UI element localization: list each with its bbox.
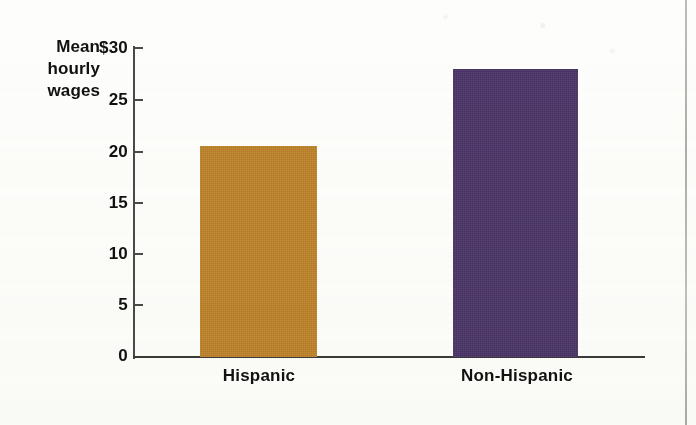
y-tick-mark-15	[135, 202, 143, 204]
y-tick-label-10: 10	[64, 245, 128, 262]
y-tick-label-5: 5	[64, 296, 128, 313]
y-tick-mark-30	[135, 47, 143, 49]
x-axis-label-non-hispanic: Non-Hispanic	[436, 366, 598, 386]
bar-hispanic[interactable]	[200, 146, 317, 357]
y-tick-mark-25	[135, 99, 143, 101]
y-tick-mark-10	[135, 253, 143, 255]
y-tick-mark-5	[135, 304, 143, 306]
plot-area: Mean hourly wages $30 25 20 15 10 5	[0, 0, 696, 425]
y-tick-label-25: 25	[64, 91, 128, 108]
y-tick-label-20: 20	[64, 143, 128, 160]
y-axis-title-line-2: hourly	[4, 58, 100, 80]
y-tick-mark-20	[135, 151, 143, 153]
bar-non-hispanic-fill	[453, 69, 578, 357]
y-tick-label-15: 15	[64, 194, 128, 211]
y-axis-line	[133, 46, 135, 359]
y-tick-label-30: $30	[64, 39, 128, 56]
x-axis-label-hispanic: Hispanic	[178, 366, 340, 386]
page-edge-rule	[685, 0, 687, 425]
bar-hispanic-fill	[200, 146, 317, 357]
y-tick-label-0: 0	[64, 347, 128, 364]
chart-page: Mean hourly wages $30 25 20 15 10 5	[0, 0, 696, 425]
bar-non-hispanic[interactable]	[453, 69, 578, 357]
